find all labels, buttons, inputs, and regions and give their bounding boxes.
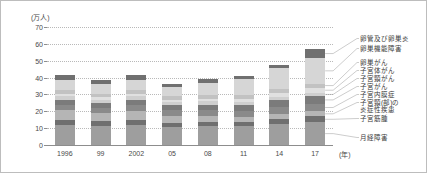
y-tick-label-70: 70 <box>35 24 43 31</box>
bar-segment <box>55 110 75 119</box>
bar-segment <box>91 113 111 121</box>
legend-item-10: 月経障害 <box>360 134 388 141</box>
x-tick-label-14: 14 <box>275 150 283 157</box>
bar-segment <box>55 125 75 145</box>
bar-segment <box>126 80 146 90</box>
bar-segment <box>305 104 325 112</box>
bar-05 <box>162 84 182 145</box>
bar-segment <box>269 124 289 145</box>
legend-item-3: 子宮体がん <box>360 67 395 74</box>
x-tick-label-11: 11 <box>240 150 247 157</box>
y-axis-unit-label: (万人) <box>31 12 50 22</box>
x-tick-label-08: 08 <box>204 150 212 157</box>
y-tick-label-40: 40 <box>35 74 43 81</box>
legend-item-8: 炎症性疾患 <box>360 106 395 113</box>
bar-segment <box>55 80 75 90</box>
bar-segment <box>91 84 111 93</box>
legend-item-5: 子宮がん <box>360 83 388 90</box>
bar-segment <box>305 96 325 104</box>
bar-14 <box>269 65 289 145</box>
bar-segment <box>162 87 182 96</box>
bar-segment <box>234 79 254 95</box>
y-tick-label-60: 60 <box>35 40 43 47</box>
bar-17 <box>305 49 325 145</box>
bar-segment <box>305 58 325 83</box>
y-tick-label-50: 50 <box>35 57 43 64</box>
bar-segment <box>198 83 218 96</box>
bar-99 <box>91 80 111 145</box>
x-tick-label-05: 05 <box>168 150 176 157</box>
x-tick-label-99: 99 <box>97 150 105 157</box>
legend-item-2: 卵巣がん <box>360 59 388 66</box>
bar-segment <box>162 116 182 123</box>
bar-segment <box>269 100 289 107</box>
axis-line-zero <box>47 145 333 146</box>
legend-item-1: 卵巣機能障害 <box>360 45 402 52</box>
bar-2002 <box>126 75 146 145</box>
legend-item-0: 卵管及び卵巣炎 <box>360 35 409 42</box>
x-axis-unit-label: (年) <box>339 149 351 159</box>
plot-area: 010203040506070 19969920020508111417 <box>47 27 333 145</box>
bar-segment <box>126 125 146 145</box>
x-tick-label-1996: 1996 <box>57 150 73 157</box>
y-tick-label-0: 0 <box>39 142 43 149</box>
bar-segment <box>126 111 146 119</box>
bar-segment <box>198 126 218 145</box>
y-tick-mark-0 <box>44 145 47 146</box>
bar-segment <box>305 49 325 58</box>
y-tick-label-10: 10 <box>35 125 43 132</box>
bar-1996 <box>55 75 75 145</box>
bar-segment <box>269 68 289 88</box>
stacked-bar-chart: (万人) 010203040506070 1996992002050811141… <box>0 0 427 173</box>
legend-item-4: 子宮頸がん <box>360 75 395 82</box>
x-tick-label-2002: 2002 <box>129 150 145 157</box>
y-tick-label-20: 20 <box>35 108 43 115</box>
legend-item-6: 子宮内膜症 <box>360 91 395 98</box>
bar-segment <box>234 126 254 145</box>
bar-11 <box>234 76 254 145</box>
bar-segment <box>91 126 111 145</box>
bar-08 <box>198 79 218 145</box>
bar-segment <box>162 127 182 145</box>
bar-group <box>47 27 333 145</box>
y-tick-label-30: 30 <box>35 91 43 98</box>
legend-item-9: 子宮筋腫 <box>360 115 388 122</box>
bar-segment <box>305 122 325 145</box>
x-tick-label-17: 17 <box>311 150 319 157</box>
bar-segment <box>269 107 289 114</box>
